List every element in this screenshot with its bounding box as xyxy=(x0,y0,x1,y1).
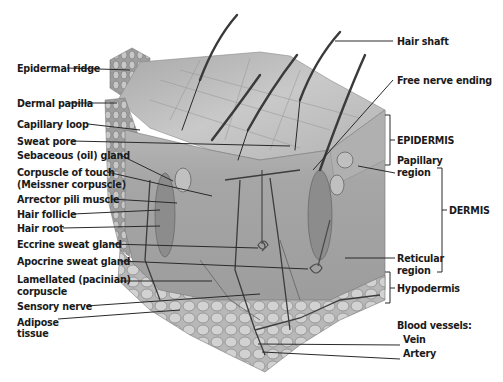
label-eccrine-sweat-gland: Eccrine sweat gland xyxy=(17,239,122,250)
label-hair-follicle: Hair follicle xyxy=(17,209,76,220)
label-dermis: DERMIS xyxy=(449,205,490,216)
label-reticular-region-line2: region xyxy=(397,265,431,276)
label-papillary-region-line2: region xyxy=(397,167,431,178)
label-artery: Artery xyxy=(403,348,436,359)
label-capillary-loop: Capillary loop xyxy=(17,119,89,130)
label-sebaceous-gland: Sebaceous (oil) gland xyxy=(17,150,130,161)
skin-diagram: Epidermal ridge Dermal papilla Capillary… xyxy=(0,0,503,382)
label-apocrine-sweat-gland: Apocrine sweat gland xyxy=(17,256,130,267)
label-lamellated-corpuscle: Lamellated (pacinian) xyxy=(17,274,131,285)
label-meissner-corpuscle: (Meissner corpuscle) xyxy=(17,179,126,190)
label-dermal-papilla: Dermal papilla xyxy=(17,98,93,109)
label-hair-root: Hair root xyxy=(17,223,64,234)
label-epidermal-ridge: Epidermal ridge xyxy=(17,63,100,74)
label-adipose-tissue: Adipose xyxy=(17,317,59,328)
label-free-nerve-ending: Free nerve ending xyxy=(397,75,492,86)
label-corpuscle-of-touch: Corpuscle of touch xyxy=(17,167,115,178)
label-sensory-nerve: Sensory nerve xyxy=(17,301,92,312)
label-papillary-region: Papillary xyxy=(397,155,443,166)
label-adipose-tissue-line2: tissue xyxy=(17,328,48,339)
label-epidermis: EPIDERMIS xyxy=(397,135,454,146)
label-hypodermis: Hypodermis xyxy=(397,283,460,294)
label-hair-shaft: Hair shaft xyxy=(397,36,449,47)
label-reticular-region: Reticular xyxy=(397,253,444,264)
label-arrector-pili-muscle: Arrector pili muscle xyxy=(17,194,119,205)
label-vein: Vein xyxy=(403,334,426,345)
label-lamellated-corpuscle-line2: corpuscle xyxy=(17,286,67,297)
label-blood-vessels: Blood vessels: xyxy=(397,320,472,331)
label-sweat-pore: Sweat pore xyxy=(17,136,76,147)
